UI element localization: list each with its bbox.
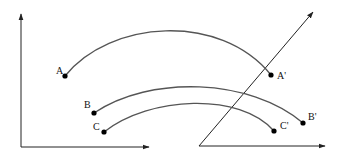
label-c-prime: C': [280, 120, 289, 131]
mapping-diagram: A B C A' B' C': [0, 0, 338, 158]
point-c-prime: [271, 128, 276, 133]
point-b-prime: [300, 120, 305, 125]
right-axes: [199, 12, 325, 146]
point-b: [91, 110, 96, 115]
label-b: B: [84, 99, 91, 110]
point-c: [101, 129, 106, 134]
arc-a: [65, 31, 271, 76]
left-axes: [21, 14, 149, 147]
arc-c: [104, 103, 274, 132]
label-c: C: [93, 121, 100, 132]
right-oblique-axis: [199, 12, 313, 146]
label-a-prime: A': [277, 70, 286, 81]
label-b-prime: B': [308, 111, 317, 122]
arc-b: [94, 87, 303, 123]
label-a: A: [56, 65, 64, 76]
labels: A B C A' B' C': [56, 65, 317, 132]
point-a-prime: [268, 72, 273, 77]
arcs: [65, 31, 303, 132]
